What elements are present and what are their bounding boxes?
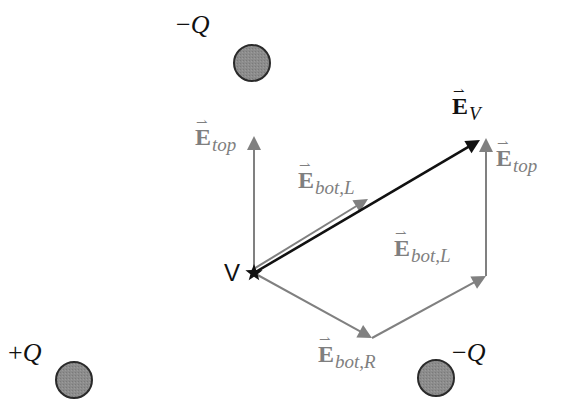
charge-sign: + [8, 338, 23, 367]
vector-E_botL_chain [372, 276, 486, 338]
charge-label-top: −Q [176, 12, 209, 38]
charge-sign: − [176, 10, 191, 39]
vector-E_botR [254, 273, 372, 338]
vector-arrow-icon: ⇀ [319, 333, 331, 347]
charge-symbol: Q [23, 338, 42, 367]
vector-arrow-icon: ⇀ [497, 137, 509, 151]
vector-E_botL_left [252, 199, 368, 270]
vector-arrow-icon: ⇀ [299, 159, 311, 173]
vector-arrow-icon: ⇀ [196, 116, 208, 130]
charge-sign: − [452, 338, 467, 367]
charge-label-bottom-left: +Q [8, 340, 41, 366]
vector-subscript: V [469, 103, 481, 124]
vector-subscript: bot,R [335, 351, 376, 372]
vector-arrow-icon: ⇀ [395, 227, 407, 241]
vector-subscript: bot,L [411, 245, 451, 266]
vector-subscript: top [212, 134, 236, 155]
arrowhead-icon [479, 138, 493, 152]
vector-label-e-botl-chain: ⇀Ebot,L [394, 236, 451, 260]
charge-top-circle [234, 45, 270, 81]
vectors-layer [247, 136, 493, 338]
point-v-star-icon [245, 264, 262, 280]
vector-label-e-botl-left: ⇀Ebot,L [298, 168, 355, 192]
vector-label-e-v-resultant: ⇀EV [452, 94, 481, 118]
vector-label-e-top-left: ⇀Etop [195, 125, 236, 149]
vector-subscript: top [513, 155, 537, 176]
vector-subscript: bot,L [315, 177, 355, 198]
arrowhead-icon [247, 136, 261, 150]
charge-symbol: Q [191, 10, 210, 39]
field-diagram: −Q +Q −Q V ⇀Etop ⇀Ebot,L ⇀Ebot,R ⇀Ebot,L… [0, 0, 565, 405]
point-v-label: V [224, 261, 240, 285]
point-layer [245, 264, 262, 280]
vector-label-e-top-chain: ⇀Etop [496, 146, 537, 170]
charge-label-bottom-right: −Q [452, 340, 485, 366]
charge-symbol: Q [467, 338, 486, 367]
vector-E_top_chain [479, 138, 493, 276]
vector-E_top_left [247, 136, 261, 273]
vector-label-e-botr: ⇀Ebot,R [318, 342, 376, 366]
charge-bottom-right-circle [418, 360, 454, 396]
charge-bottom-left-circle [56, 362, 92, 398]
vector-arrow-icon: ⇀ [453, 85, 465, 99]
